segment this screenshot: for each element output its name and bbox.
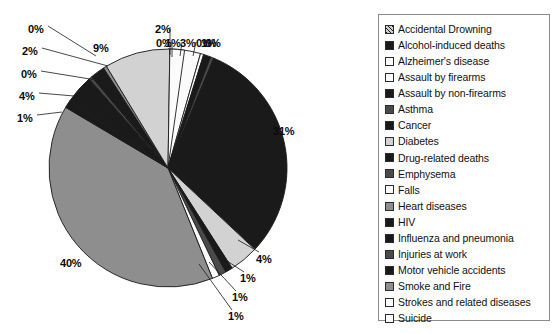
legend-swatch-icon	[385, 202, 394, 211]
legend-item[interactable]: Drug-related deaths	[385, 150, 545, 166]
legend-item[interactable]: Heart diseases	[385, 198, 545, 214]
legend-item-label: Cancer	[398, 120, 431, 131]
pie-percent-label: 1%	[240, 272, 256, 284]
legend-swatch-icon	[385, 137, 394, 146]
legend-item[interactable]: Assault by non-firearms	[385, 85, 545, 101]
pie-percent-label: 1%	[17, 112, 33, 124]
pie-percent-label: 0%	[28, 23, 44, 35]
legend-box: Accidental DrowningAlcohol-induced death…	[378, 14, 550, 321]
legend-item-label: Suicide	[398, 313, 432, 324]
legend-swatch-icon	[385, 282, 394, 291]
legend-item-label: Assault by non-firearms	[398, 88, 506, 99]
legend-swatch-icon	[385, 153, 394, 162]
legend-swatch-icon	[385, 121, 394, 130]
pie-percent-label: 40%	[60, 257, 81, 269]
legend-swatch-icon	[385, 314, 394, 323]
legend-item[interactable]: Suicide	[385, 311, 545, 327]
pie-plot-area: 0%2%0%4%1%9%2%0%1%3%0%1%0%31%4%1%1%1%40%	[0, 0, 368, 334]
legend-item[interactable]: Motor vehicle accidents	[385, 262, 545, 278]
pie-percent-label: 1%	[228, 310, 244, 322]
legend-item[interactable]: Falls	[385, 182, 545, 198]
legend-swatch-icon	[385, 73, 394, 82]
pie-percent-label: 3%	[180, 37, 196, 49]
legend-item[interactable]: Cancer	[385, 118, 545, 134]
legend-item-label: Accidental Drowning	[398, 24, 492, 35]
legend-item[interactable]: Injuries at work	[385, 246, 545, 262]
legend-swatch-icon	[385, 105, 394, 114]
pie-percent-label: 1%	[165, 37, 181, 49]
legend-item-label: Heart diseases	[398, 201, 467, 212]
legend-swatch-icon	[385, 25, 394, 34]
legend-item[interactable]: Asthma	[385, 101, 545, 117]
pie-slices	[49, 49, 287, 287]
legend-item-label: Asthma	[398, 104, 433, 115]
pie-percent-label: 0%	[21, 68, 37, 80]
pie-percent-label: 4%	[19, 90, 35, 102]
legend-item-label: Alcohol-induced deaths	[398, 40, 505, 51]
pie-percent-label: 4%	[256, 253, 272, 265]
legend-swatch-icon	[385, 250, 394, 259]
legend-item[interactable]: Emphysema	[385, 166, 545, 182]
legend-item[interactable]: Influenza and pneumonia	[385, 230, 545, 246]
legend-swatch-icon	[385, 218, 394, 227]
legend-swatch-icon	[385, 169, 394, 178]
legend-item-label: Smoke and Fire	[398, 281, 471, 292]
leader-line	[39, 93, 74, 96]
legend-item-label: Injuries at work	[398, 249, 467, 260]
legend-item[interactable]: Alzheimer's disease	[385, 53, 545, 69]
legend-swatch-icon	[385, 89, 394, 98]
legend-item-label: Drug-related deaths	[398, 153, 489, 164]
leader-line	[37, 112, 62, 115]
pie-percent-label: 0%	[205, 37, 221, 49]
legend-item[interactable]: Strokes and related diseases	[385, 295, 545, 311]
legend-item-label: HIV	[398, 217, 415, 228]
legend-item-label: Strokes and related diseases	[398, 297, 531, 308]
legend-swatch-icon	[385, 57, 394, 66]
legend-list: Accidental DrowningAlcohol-induced death…	[385, 21, 545, 327]
pie-svg	[0, 0, 368, 334]
legend-swatch-icon	[385, 41, 394, 50]
legend-item[interactable]: HIV	[385, 214, 545, 230]
legend-item[interactable]: Smoke and Fire	[385, 279, 545, 295]
legend-item[interactable]: Diabetes	[385, 134, 545, 150]
pie-percent-label: 31%	[273, 125, 294, 137]
legend-item-label: Alzheimer's disease	[398, 56, 489, 67]
pie-percent-label: 2%	[155, 23, 171, 35]
legend-item-label: Diabetes	[398, 136, 439, 147]
legend-item-label: Assault by firearms	[398, 72, 485, 83]
pie-percent-label: 1%	[232, 291, 248, 303]
legend-swatch-icon	[385, 185, 394, 194]
legend-item-label: Motor vehicle accidents	[398, 265, 505, 276]
legend-swatch-icon	[385, 234, 394, 243]
legend-item-label: Influenza and pneumonia	[398, 233, 514, 244]
leader-line	[41, 71, 96, 80]
legend-item-label: Emphysema	[398, 169, 455, 180]
legend-swatch-icon	[385, 298, 394, 307]
legend-item[interactable]: Accidental Drowning	[385, 21, 545, 37]
legend-swatch-icon	[385, 266, 394, 275]
legend-item[interactable]: Alcohol-induced deaths	[385, 37, 545, 53]
legend-item[interactable]: Assault by firearms	[385, 69, 545, 85]
pie-percent-label: 2%	[22, 45, 38, 57]
pie-percent-label: 9%	[93, 42, 109, 54]
pie-chart-figure: 0%2%0%4%1%9%2%0%1%3%0%1%0%31%4%1%1%1%40%…	[0, 0, 556, 334]
legend-item-label: Falls	[398, 185, 420, 196]
